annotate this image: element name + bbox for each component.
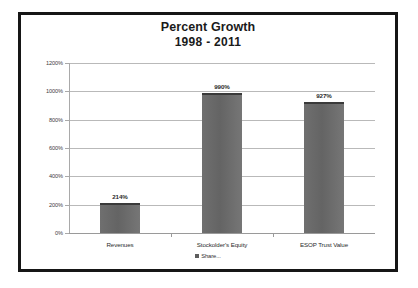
category-axis-label: Revenues [106,241,133,248]
category-axis-label: ESOP Trust Value [300,241,348,248]
bar-data-label: 214% [112,193,127,200]
chart-title: Percent Growth 1998 - 2011 [21,20,395,50]
chart-title-line1: Percent Growth [161,20,255,34]
legend-square-icon [195,254,199,258]
bar [100,203,141,233]
chart-legend: Share... [21,253,395,259]
y-axis-tick-label: 200% [49,202,63,208]
bar-series: 214%990%927% [69,63,375,233]
chart-title-line2: 1998 - 2011 [21,35,395,50]
category-axis-label: Stockolder's Equity [197,241,248,248]
bar-data-label: 990% [214,83,229,90]
y-axis-tick-label: 1000% [46,88,63,94]
category-axis-tick [171,233,172,237]
plot-area: 0%200%400%600%800%1000%1200% 214%990%927… [69,63,375,233]
y-axis-tick-label: 800% [49,117,63,123]
bar [304,102,345,233]
y-axis-tick-label: 400% [49,173,63,179]
legend-item-label: Share... [201,253,221,259]
bar [202,93,243,233]
bar-data-label: 927% [316,92,331,99]
y-axis-tick-label: 0% [55,230,63,236]
chart-frame: Percent Growth 1998 - 2011 0%200%400%600… [18,12,398,272]
category-axis: RevenuesStockolder's EquityESOP Trust Va… [69,233,375,234]
category-axis-tick [273,233,274,237]
y-axis-tick-label: 1200% [46,60,63,66]
y-axis-tick-label: 600% [49,145,63,151]
